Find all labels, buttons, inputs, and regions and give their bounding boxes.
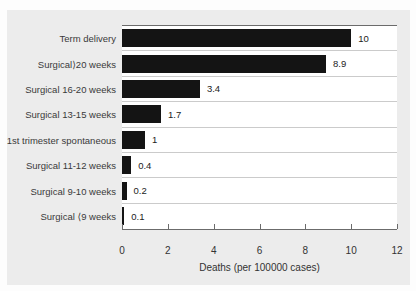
x-axis-tick-mark bbox=[305, 224, 306, 229]
x-axis-tick-label: 4 bbox=[211, 245, 217, 256]
x-axis-tick-mark bbox=[214, 224, 215, 229]
bar-row: 10 bbox=[122, 26, 397, 51]
category-label: Surgical 9-10 weeks bbox=[7, 178, 122, 203]
value-label: 0.1 bbox=[131, 211, 144, 222]
value-label: 0.4 bbox=[138, 160, 151, 171]
figure-panel: Term deliverySurgical⟩20 weeksSurgical 1… bbox=[7, 10, 410, 285]
value-label: 3.4 bbox=[207, 83, 220, 94]
bar-row: 0.2 bbox=[122, 178, 397, 203]
value-label: 1 bbox=[152, 134, 157, 145]
value-label: 0.2 bbox=[134, 185, 147, 196]
bar-row: 1 bbox=[122, 128, 397, 153]
x-axis-tick-mark bbox=[122, 224, 123, 229]
x-axis-tick-mark bbox=[351, 224, 352, 229]
category-label: Surgical 11-12 weeks bbox=[7, 153, 122, 178]
bar-row: 8.9 bbox=[122, 51, 397, 76]
bar bbox=[122, 207, 124, 225]
plot-area: 108.93.41.710.40.20.1 bbox=[122, 25, 397, 230]
bar-chart: Term deliverySurgical⟩20 weeksSurgical 1… bbox=[7, 25, 397, 230]
x-axis-tick-label: 10 bbox=[346, 245, 357, 256]
category-label: Surgical 13-15 weeks bbox=[7, 102, 122, 127]
bar-row: 3.4 bbox=[122, 77, 397, 102]
bar-row: 0.4 bbox=[122, 153, 397, 178]
x-axis-tick-mark bbox=[168, 224, 169, 229]
x-axis-tick-label: 0 bbox=[119, 245, 125, 256]
x-axis-tick-labels: 024681012 bbox=[122, 245, 397, 259]
x-axis-tick-label: 12 bbox=[391, 245, 402, 256]
value-label: 8.9 bbox=[333, 58, 346, 69]
x-axis-tick-mark bbox=[260, 224, 261, 229]
bar bbox=[122, 105, 161, 123]
x-axis-tick-label: 8 bbox=[303, 245, 309, 256]
category-label: Term delivery bbox=[7, 26, 122, 51]
category-label: 1st trimester spontaneous bbox=[7, 128, 122, 153]
bar-row: 1.7 bbox=[122, 102, 397, 127]
bar bbox=[122, 131, 145, 149]
bar bbox=[122, 182, 127, 200]
x-axis-title: Deaths (per 100000 cases) bbox=[122, 262, 397, 273]
bar bbox=[122, 80, 200, 98]
x-axis-tick-label: 2 bbox=[165, 245, 171, 256]
category-label: Surgical ⟨9 weeks bbox=[7, 204, 122, 229]
value-label: 1.7 bbox=[168, 109, 181, 120]
category-label: Surgical⟩20 weeks bbox=[7, 51, 122, 76]
x-axis-tick-mark bbox=[397, 224, 398, 229]
category-axis: Term deliverySurgical⟩20 weeksSurgical 1… bbox=[7, 25, 122, 230]
x-axis-tick-label: 6 bbox=[257, 245, 263, 256]
value-label: 10 bbox=[358, 33, 369, 44]
bar bbox=[122, 156, 131, 174]
bar bbox=[122, 55, 326, 73]
bar bbox=[122, 29, 351, 47]
category-label: Surgical 16-20 weeks bbox=[7, 77, 122, 102]
